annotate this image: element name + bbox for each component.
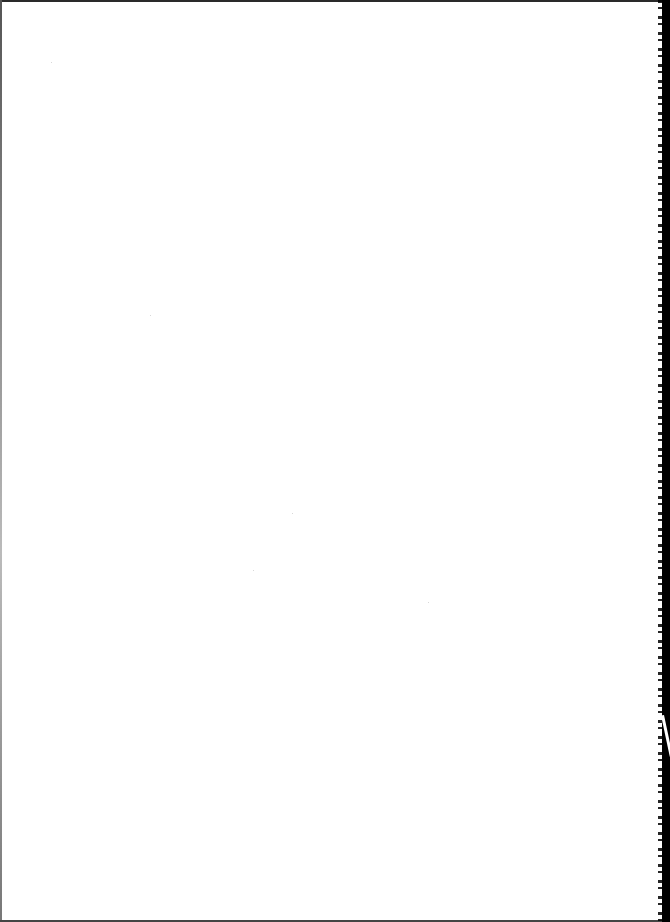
scan-speck: [51, 62, 52, 63]
scan-speck: [428, 602, 429, 603]
torn-paper-edge: [658, 0, 664, 922]
scan-speck: [150, 315, 151, 316]
left-scan-edge: [0, 0, 2, 922]
scan-speck: [292, 513, 293, 514]
top-scan-edge: [0, 0, 670, 2]
scan-speck: [253, 570, 254, 571]
blank-page: [0, 0, 670, 922]
scanned-document: [0, 0, 670, 922]
